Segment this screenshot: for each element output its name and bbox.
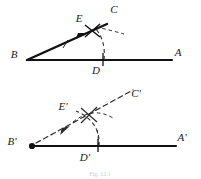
figure-canvas: B A C D E [0,0,201,179]
label-e: E [75,12,83,24]
geometry-figure: B A C D E [0,0,201,179]
label-b: B [11,48,18,60]
label-e-prime: E' [57,100,68,112]
label-a: A [174,46,182,58]
label-c-prime: C' [131,87,141,99]
vertex-dot-b-prime [29,143,35,149]
label-b-prime: B' [7,135,17,147]
figure-caption: Fig. 12.1 [89,171,111,177]
bottom-diagram: B' A' C' D' E' [7,87,187,163]
top-diagram: B A C D E [11,3,182,76]
ray-arrowhead-prime [60,126,70,135]
ray-bc-prime [36,90,133,143]
label-c: C [110,3,118,15]
ray-arrowhead [76,33,86,38]
label-d-prime: D' [79,151,91,163]
arc-d-prime-centered [73,113,113,122]
label-d: D [91,64,100,76]
label-a-prime: A' [176,131,187,143]
